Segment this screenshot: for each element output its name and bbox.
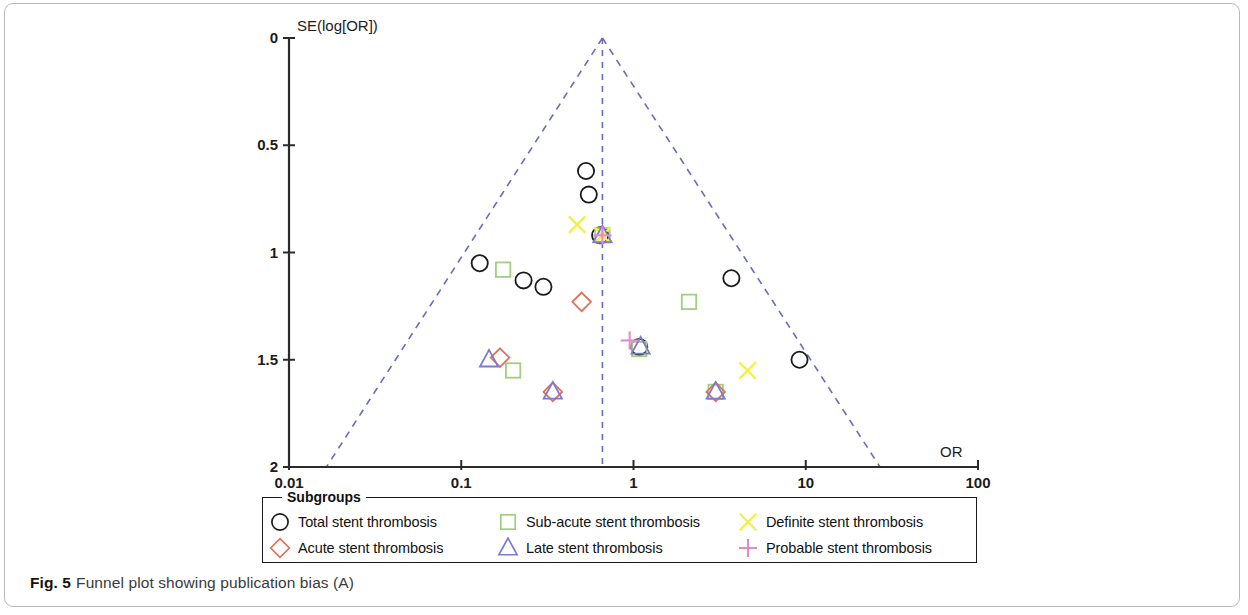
data-point[interactable] <box>572 293 591 312</box>
legend-marker-circle-icon <box>269 511 291 533</box>
figure-caption: Fig. 5Funnel plot showing publication bi… <box>30 574 930 592</box>
series-triangle <box>480 225 725 398</box>
data-point[interactable] <box>578 163 594 179</box>
plot-canvas: 00.511.520.010.1110100SE(log[OR])OR <box>0 0 1248 500</box>
y-tick-label: 1.5 <box>257 351 278 368</box>
y-axis-title: SE(log[OR]) <box>297 17 378 34</box>
caption-body: Funnel plot showing publication bias (A) <box>76 574 354 591</box>
data-point[interactable] <box>581 186 597 202</box>
data-point[interactable] <box>472 255 488 271</box>
legend-entry[interactable]: Definite stent thrombosis <box>734 509 974 535</box>
data-point[interactable] <box>723 270 739 286</box>
legend-entry-label: Sub-acute stent thrombosis <box>526 514 700 530</box>
legend-entry-label: Definite stent thrombosis <box>766 514 923 530</box>
legend-entries: Total stent thrombosisSub-acute stent th… <box>266 509 974 561</box>
x-axis-title: OR <box>940 443 963 460</box>
legend-marker-shape <box>740 514 757 531</box>
legend-marker-plus-icon <box>737 537 759 559</box>
legend-entry-label: Late stent thrombosis <box>526 540 663 556</box>
legend-marker-square-icon <box>497 511 519 533</box>
legend-title: Subgroups <box>282 489 366 505</box>
data-point[interactable] <box>791 352 807 368</box>
data-point[interactable] <box>535 279 551 295</box>
y-tick-label: 0.5 <box>257 136 278 153</box>
data-point[interactable] <box>515 272 531 288</box>
figure-container: 00.511.520.010.1110100SE(log[OR])OR Subg… <box>0 0 1248 615</box>
data-point[interactable] <box>739 362 756 379</box>
y-tick-label: 0 <box>270 29 278 46</box>
legend-marker-shape <box>739 539 757 557</box>
data-point[interactable] <box>682 295 696 309</box>
x-tick-label: 1 <box>629 474 637 491</box>
legend-entry[interactable]: Probable stent thrombosis <box>734 535 974 561</box>
series-square <box>496 228 723 399</box>
legend-marker-shape <box>271 539 290 558</box>
y-tick-label: 2 <box>270 458 278 475</box>
legend-marker-shape <box>272 514 288 530</box>
data-point[interactable] <box>506 363 520 377</box>
legend-entry[interactable]: Sub-acute stent thrombosis <box>494 509 734 535</box>
data-point[interactable] <box>569 216 586 233</box>
funnel-right-line <box>602 38 880 467</box>
x-tick-label: 0.1 <box>451 474 472 491</box>
legend-entry-label: Total stent thrombosis <box>298 514 437 530</box>
caption-figure-number: Fig. 5 <box>30 574 71 591</box>
legend-marker-shape <box>499 538 517 555</box>
legend-marker-cross-x-icon <box>737 511 759 533</box>
data-point[interactable] <box>544 382 562 399</box>
x-tick-label: 100 <box>965 474 990 491</box>
y-tick-label: 1 <box>270 244 278 261</box>
funnel-plot: 00.511.520.010.1110100SE(log[OR])OR <box>0 0 1248 500</box>
series-cross-x <box>569 216 756 378</box>
legend-entry[interactable]: Acute stent thrombosis <box>266 535 494 561</box>
series-plus <box>593 226 638 349</box>
legend-marker-shape <box>501 515 515 529</box>
legend-entry[interactable]: Late stent thrombosis <box>494 535 734 561</box>
legend-entry[interactable]: Total stent thrombosis <box>266 509 494 535</box>
funnel-left-line <box>326 38 602 467</box>
legend-entry-label: Acute stent thrombosis <box>298 540 443 556</box>
data-point[interactable] <box>496 262 510 276</box>
legend-marker-diamond-icon <box>269 537 291 559</box>
legend-entry-label: Probable stent thrombosis <box>766 540 932 556</box>
x-tick-label: 10 <box>797 474 814 491</box>
legend-marker-triangle-icon <box>497 537 519 559</box>
